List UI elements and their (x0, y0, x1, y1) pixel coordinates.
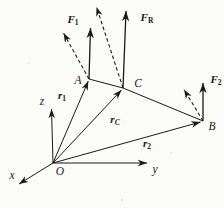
vector-r2 (53, 122, 201, 163)
paper-speck (170, 152, 172, 154)
label-point-b: B (208, 121, 215, 133)
label-axis-z: z (40, 96, 44, 108)
label-force-f2-subscript: 2 (218, 78, 222, 87)
rotated-force-at-c-arrow (97, 7, 124, 88)
label-vector-rc-subscript: C (115, 118, 120, 127)
label-force-fr: FR (141, 12, 154, 25)
label-point-a: A (74, 75, 81, 87)
label-force-fr-subscript: R (148, 16, 153, 25)
label-vector-rc: rC (110, 114, 119, 127)
label-vector-r2: r2 (143, 138, 151, 151)
paper-speck (28, 62, 30, 64)
label-vector-r1-subscript: 1 (62, 94, 66, 103)
force-fr-arrow (123, 11, 126, 88)
label-axis-y: y (152, 164, 157, 176)
label-vector-r2-subscript: 2 (147, 142, 151, 151)
segment-a-c (89, 79, 123, 88)
paper-speck (121, 199, 123, 201)
rotated-force-at-a-arrow (64, 33, 90, 79)
segment-c-b (123, 88, 203, 121)
diagram-svg (0, 0, 224, 208)
label-force-f1: F1 (67, 14, 78, 27)
z-axis (52, 109, 54, 163)
x-axis (19, 163, 53, 184)
label-force-f1-subscript: 1 (75, 18, 79, 27)
label-vector-r1: r1 (58, 90, 66, 103)
label-point-c: C (134, 78, 142, 90)
rotated-force-at-b-arrow (184, 90, 203, 122)
label-point-o: O (56, 166, 64, 178)
label-axis-x: x (9, 170, 14, 182)
force-f1-arrow (89, 28, 91, 79)
label-force-f2: F2 (210, 74, 221, 87)
figure-canvas: F1 FR F2 r1 rC r2 A C B O x y z (0, 0, 224, 208)
